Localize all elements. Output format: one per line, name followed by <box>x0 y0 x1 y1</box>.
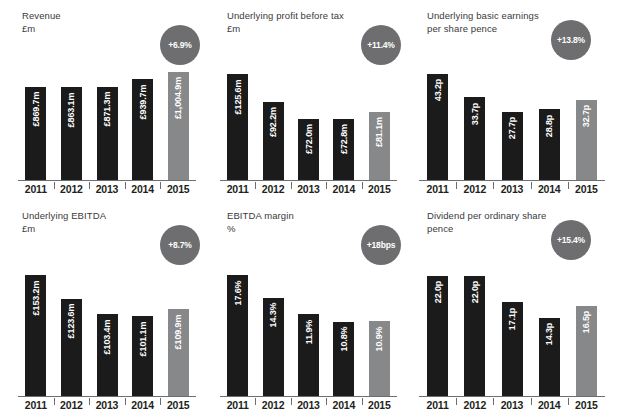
x-axis-label-2011: 2011 <box>419 183 456 195</box>
bar-value-label: £125.6m <box>233 79 243 114</box>
bar-underlying-basic-earnings-per-share-2011: 43.2p <box>427 74 448 180</box>
chart-panel-underlying-ebitda: Underlying EBITDA£m+8.7%£153.2m2011£123.… <box>0 200 205 416</box>
bar-value-label: 14.3p <box>544 323 554 346</box>
kpi-dashboard: Revenue£m+6.9%£869.7m2011£863.1m2012£871… <box>0 0 620 416</box>
x-axis-label-2013: 2013 <box>291 399 326 411</box>
chart-units-label: £m <box>22 23 35 36</box>
bar-value-label: £81.1m <box>374 117 384 147</box>
bar-value-label: £939.7m <box>138 84 148 119</box>
bar-underlying-basic-earnings-per-share-2014: 28.8p <box>539 109 560 180</box>
x-axis-label-2013: 2013 <box>493 399 530 411</box>
bar-underlying-basic-earnings-per-share-2015: 32.7p <box>576 100 597 180</box>
bar-underlying-ebitda-2012: £123.6m <box>61 299 82 396</box>
bar-value-label: 10.9% <box>374 326 384 351</box>
x-axis-label-2014: 2014 <box>326 399 361 411</box>
x-axis-label-2012: 2012 <box>255 183 290 195</box>
bar-value-label: £123.6m <box>66 304 76 339</box>
bar-value-label: £863.1m <box>66 92 76 127</box>
x-axis-label-2014: 2014 <box>125 399 161 411</box>
bar-underlying-profit-before-tax-2012: £92.2m <box>263 102 284 180</box>
chart-title: Dividend per ordinary share pence <box>427 210 546 235</box>
bar-value-label: £72.8m <box>339 124 349 154</box>
bar-revenue-2015: £1,004.9m <box>168 72 189 180</box>
bar-value-label: £72.0m <box>304 124 314 154</box>
bar-underlying-ebitda-2013: £103.4m <box>97 314 118 396</box>
bar-value-label: £109.9m <box>173 314 183 349</box>
bar-underlying-ebitda-2014: £101.1m <box>132 316 153 396</box>
bar-revenue-2011: £869.7m <box>25 87 46 180</box>
bar-underlying-profit-before-tax-2011: £125.6m <box>227 74 248 180</box>
bar-value-label: 10.8% <box>339 327 349 352</box>
growth-badge-underlying-profit-before-tax: +11.4% <box>361 25 401 65</box>
bar-value-label: 33.7p <box>470 102 480 125</box>
bar-ebitda-margin-2011: 17.6% <box>227 275 248 396</box>
bar-value-label: £1,004.9m <box>173 77 183 119</box>
bar-value-label: 27.7p <box>507 117 517 140</box>
x-axis-label-2011: 2011 <box>220 183 255 195</box>
bar-value-label: 17.6% <box>233 280 243 305</box>
bar-underlying-profit-before-tax-2015: £81.1m <box>369 112 390 180</box>
chart-units-label: % <box>227 223 235 236</box>
x-axis-label-2013: 2013 <box>493 183 530 195</box>
bar-ebitda-margin-2012: 14.3% <box>263 298 284 396</box>
bar-value-label: £153.2m <box>31 280 41 315</box>
x-axis-label-2015: 2015 <box>568 399 605 411</box>
chart-panel-underlying-profit-before-tax: Underlying profit before tax£m+11.4%£125… <box>205 0 405 200</box>
bar-value-label: £869.7m <box>31 92 41 127</box>
chart-title: Underlying basic earnings per share penc… <box>427 10 539 35</box>
x-axis-label-2014: 2014 <box>125 183 161 195</box>
x-axis-line <box>419 396 605 397</box>
bar-value-label: £101.1m <box>138 321 148 356</box>
chart-title: Revenue <box>22 10 61 23</box>
bar-value-label: £92.2m <box>268 107 278 137</box>
bar-revenue-2012: £863.1m <box>61 87 82 180</box>
bar-value-label: £103.4m <box>102 320 112 355</box>
bar-revenue-2013: £871.3m <box>97 87 118 180</box>
x-axis-label-2012: 2012 <box>456 399 493 411</box>
bar-value-label: 14.3% <box>268 303 278 328</box>
x-axis-label-2013: 2013 <box>89 183 125 195</box>
chart-panel-underlying-basic-earnings-per-share: Underlying basic earnings per share penc… <box>405 0 620 200</box>
x-axis-line <box>18 396 196 397</box>
x-axis-line <box>419 180 605 181</box>
bar-value-label: 32.7p <box>581 105 591 128</box>
x-axis-label-2014: 2014 <box>531 183 568 195</box>
bar-dividend-per-ordinary-share-2012: 22.0p <box>464 276 485 396</box>
chart-title: Underlying profit before tax <box>227 10 344 23</box>
chart-units-label: £m <box>22 223 35 236</box>
x-axis-label-2015: 2015 <box>362 399 397 411</box>
bar-ebitda-margin-2014: 10.8% <box>333 322 354 396</box>
x-axis-label-2012: 2012 <box>54 399 90 411</box>
x-axis-label-2015: 2015 <box>362 183 397 195</box>
bar-value-label: 22.0p <box>470 281 480 304</box>
bar-dividend-per-ordinary-share-2011: 22.0p <box>427 276 448 396</box>
x-axis-line <box>18 180 196 181</box>
bar-ebitda-margin-2013: 11.9% <box>298 314 319 396</box>
bar-value-label: 28.8p <box>544 114 554 137</box>
bar-ebitda-margin-2015: 10.9% <box>369 321 390 396</box>
x-axis-label-2015: 2015 <box>568 183 605 195</box>
bar-value-label: 17.1p <box>507 308 517 331</box>
x-axis-label-2015: 2015 <box>160 399 196 411</box>
bar-dividend-per-ordinary-share-2014: 14.3p <box>539 318 560 396</box>
chart-title: Underlying EBITDA <box>22 210 106 223</box>
bar-underlying-ebitda-2015: £109.9m <box>168 309 189 396</box>
bar-value-label: 11.9% <box>304 319 314 344</box>
bar-dividend-per-ordinary-share-2013: 17.1p <box>502 302 523 396</box>
bar-underlying-profit-before-tax-2013: £72.0m <box>298 119 319 180</box>
bar-revenue-2014: £939.7m <box>132 79 153 180</box>
x-axis-label-2015: 2015 <box>160 183 196 195</box>
x-axis-label-2012: 2012 <box>456 183 493 195</box>
x-axis-line <box>220 180 397 181</box>
chart-panel-dividend-per-ordinary-share: Dividend per ordinary share pence+15.4%2… <box>405 200 620 416</box>
chart-panel-revenue: Revenue£m+6.9%£869.7m2011£863.1m2012£871… <box>0 0 205 200</box>
bar-value-label: £871.3m <box>102 92 112 127</box>
bar-underlying-profit-before-tax-2014: £72.8m <box>333 119 354 180</box>
x-axis-line <box>220 396 397 397</box>
x-axis-label-2012: 2012 <box>54 183 90 195</box>
growth-badge-underlying-basic-earnings-per-share: +13.8% <box>551 20 591 60</box>
x-axis-label-2011: 2011 <box>220 399 255 411</box>
chart-title: EBITDA margin <box>227 210 294 223</box>
growth-badge-underlying-ebitda: +8.7% <box>160 225 200 265</box>
bar-underlying-basic-earnings-per-share-2013: 27.7p <box>502 112 523 180</box>
